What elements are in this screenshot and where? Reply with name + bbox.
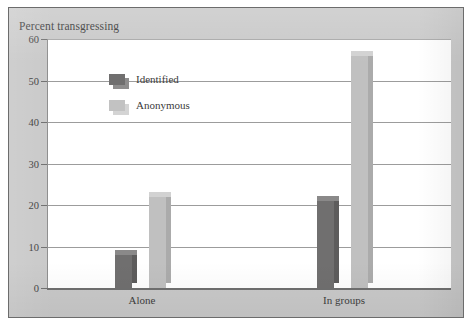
- y-axis-label: 20: [9, 200, 39, 211]
- gridline: [48, 122, 451, 123]
- y-axis-tick: [41, 122, 47, 123]
- y-axis-tick: [41, 164, 47, 165]
- gridline: [48, 39, 451, 40]
- bar-in-groups-identified: [317, 201, 334, 288]
- y-axis-tick: [41, 247, 47, 248]
- gridline: [48, 247, 451, 248]
- y-axis-label: 40: [9, 117, 39, 128]
- y-axis-tick: [41, 288, 47, 289]
- x-axis-label-in-groups: In groups: [323, 294, 365, 306]
- chart-legend: Identified Anonymous: [109, 66, 190, 118]
- y-axis-label: 10: [9, 241, 39, 252]
- gridline: [48, 164, 451, 165]
- bar-alone-identified: [115, 255, 132, 288]
- legend-label-anonymous: Anonymous: [136, 99, 190, 111]
- y-axis-label: 50: [9, 75, 39, 86]
- y-axis-label: 30: [9, 158, 39, 169]
- legend-item-identified: Identified: [109, 66, 190, 92]
- y-axis-tick: [41, 205, 47, 206]
- bar-in-groups-anonymous: [351, 56, 368, 288]
- bar-alone-anonymous: [149, 197, 166, 288]
- chart-figure: Percent transgressing 0102030405060 Iden…: [8, 7, 464, 318]
- legend-swatch-anonymous-icon: [109, 100, 125, 111]
- y-axis-tick: [41, 81, 47, 82]
- y-axis-label: 60: [9, 34, 39, 45]
- y-axis-tick: [41, 39, 47, 40]
- x-axis-baseline: [47, 288, 451, 290]
- legend-label-identified: Identified: [136, 73, 179, 85]
- y-axis-label: 0: [9, 283, 39, 294]
- x-axis-label-alone: Alone: [129, 294, 156, 306]
- legend-swatch-identified-icon: [109, 74, 125, 85]
- legend-item-anonymous: Anonymous: [109, 92, 190, 118]
- y-axis-labels: 0102030405060: [9, 8, 39, 319]
- gridline: [48, 205, 451, 206]
- plot-area: [47, 39, 451, 288]
